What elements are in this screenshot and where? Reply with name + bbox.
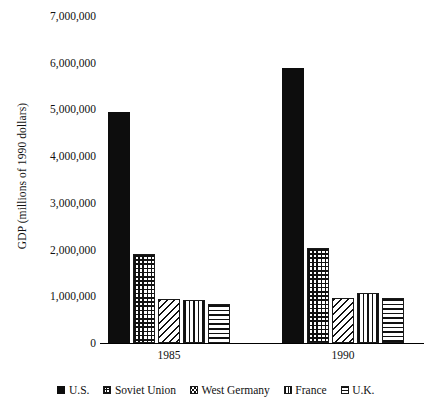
y-axis-tick-label: 4,000,000 bbox=[0, 150, 96, 162]
y-axis-tick-label: 5,000,000 bbox=[0, 103, 96, 115]
bar-1990-u-k bbox=[382, 298, 404, 343]
bar-1985-u-s bbox=[108, 112, 130, 343]
vertical-hatch-swatch-icon bbox=[284, 386, 292, 394]
y-axis-tick-label: 0 bbox=[0, 337, 96, 349]
bar-group-1985 bbox=[108, 16, 233, 343]
bar-1990-soviet-union bbox=[307, 248, 329, 343]
legend-item-u-k[interactable]: U.K. bbox=[341, 384, 375, 397]
bar-1990-u-s bbox=[282, 68, 304, 343]
bar-1985-france bbox=[183, 300, 205, 343]
x-axis-tick-label: 1990 bbox=[283, 348, 403, 362]
diagonal-hatch-swatch-icon bbox=[190, 386, 198, 394]
x-axis-tick-labels: 19851990 bbox=[100, 348, 424, 366]
y-axis-tick-label: 3,000,000 bbox=[0, 197, 96, 209]
plot-area bbox=[100, 16, 424, 343]
y-axis-tick-labels: 01,000,0002,000,0003,000,0004,000,0005,0… bbox=[0, 0, 96, 406]
bar-1990-west-germany bbox=[332, 298, 354, 343]
legend-item-label: Soviet Union bbox=[115, 384, 176, 397]
legend-item-label: West Germany bbox=[201, 384, 269, 397]
y-axis-tick-label: 6,000,000 bbox=[0, 57, 96, 69]
bar-1985-soviet-union bbox=[133, 254, 155, 343]
legend-item-france[interactable]: France bbox=[284, 384, 327, 397]
x-axis-baseline bbox=[100, 343, 424, 344]
y-axis-tick-label: 7,000,000 bbox=[0, 10, 96, 22]
legend-item-label: U.S. bbox=[69, 384, 89, 397]
legend-item-u-s[interactable]: U.S. bbox=[57, 384, 89, 397]
grid-hatch-swatch-icon bbox=[103, 386, 111, 394]
legend-item-west-germany[interactable]: West Germany bbox=[190, 384, 270, 397]
gdp-bar-chart: GDP (millions of 1990 dollars) 01,000,00… bbox=[0, 0, 432, 406]
bar-1990-france bbox=[357, 293, 379, 343]
legend-item-label: U.K. bbox=[352, 384, 374, 397]
y-axis-tick-label: 1,000,000 bbox=[0, 290, 96, 302]
chart-legend: U.S.Soviet UnionWest GermanyFranceU.K. bbox=[0, 381, 432, 399]
y-axis-tick-label: 2,000,000 bbox=[0, 244, 96, 256]
bar-1985-u-k bbox=[208, 304, 230, 343]
x-axis-tick-label: 1985 bbox=[109, 348, 229, 362]
solid-swatch-icon bbox=[57, 386, 65, 394]
legend-item-soviet-union[interactable]: Soviet Union bbox=[103, 384, 176, 397]
legend-item-label: France bbox=[295, 384, 326, 397]
bar-1985-west-germany bbox=[158, 299, 180, 343]
horizontal-hatch-swatch-icon bbox=[341, 386, 349, 394]
bar-group-1990 bbox=[282, 16, 407, 343]
